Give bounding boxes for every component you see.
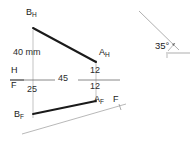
label-angle-35-degrees: 35° [155, 41, 169, 51]
dimension-height-40mm: 40 mm [13, 48, 41, 57]
label-a-top-view: AH [99, 48, 110, 57]
dimension-45: 45 [58, 74, 68, 83]
dimension-a-below-12: 12 [90, 82, 100, 91]
label-b-front-view: BF [14, 110, 24, 119]
top-view-line-ab [33, 28, 96, 62]
auxiliary-ground-line [22, 104, 126, 134]
label-b-top-view: BH [26, 8, 37, 17]
label-fold-f: F [11, 81, 17, 90]
label-fold-h: H [11, 66, 18, 75]
label-a-front-view: AF [94, 95, 104, 104]
label-auxiliary-f: F [113, 95, 119, 104]
dimension-a-above-12: 12 [90, 66, 100, 75]
front-view-line-ab [33, 101, 96, 114]
drawing-canvas: BH AH 40 mm H F 45 12 12 25 AF F BF 35° [0, 0, 190, 145]
dimension-b-below-25: 25 [27, 85, 37, 94]
auxiliary-fold-tick [119, 104, 121, 110]
